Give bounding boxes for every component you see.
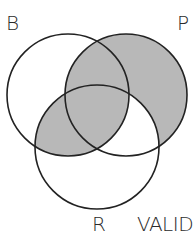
label-r: R (92, 214, 105, 234)
venn-diagram (0, 0, 195, 237)
label-b: B (6, 13, 19, 33)
validity-label: VALID (137, 214, 193, 234)
label-p: P (177, 13, 189, 33)
